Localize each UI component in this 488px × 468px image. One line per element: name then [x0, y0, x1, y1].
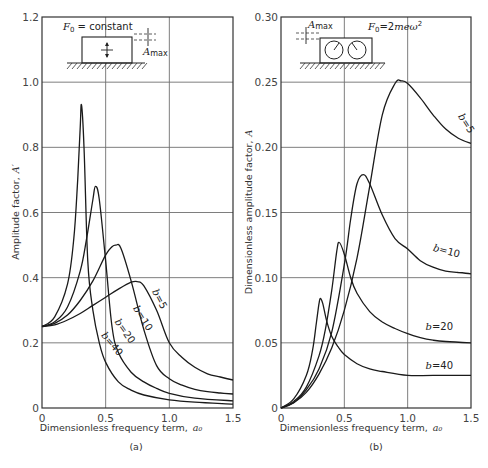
- panel-a-xlabel: Dimensionless frequency term,a₀: [40, 422, 203, 433]
- panel-b-chart: b=5b=10b=20b=40 00.51.01.500.050.100.150…: [243, 11, 479, 452]
- panel-b-force-label: F0=2meω2: [367, 20, 422, 34]
- y-tick-label: 0.2: [22, 337, 39, 349]
- hatch-stroke: [127, 63, 132, 69]
- panel-a-force-label: F0 = constant: [62, 21, 133, 34]
- hatch-stroke: [305, 63, 310, 69]
- curve-label: b=10: [131, 304, 155, 333]
- hatch-stroke: [330, 63, 335, 69]
- panel-b-grid: [281, 17, 471, 408]
- curve-label: b=40: [426, 360, 454, 371]
- hatch-stroke: [365, 63, 370, 69]
- curve-label-value: =10: [134, 309, 155, 333]
- y-tick-label: 0.05: [255, 337, 278, 349]
- panel-b-xlabel-symbol: a₀: [433, 422, 443, 433]
- hatch-stroke: [122, 63, 127, 69]
- hatch-stroke: [137, 63, 142, 69]
- panel-b-caption: (b): [369, 441, 382, 452]
- panel-b-xlabel-text: Dimensionless frequency term,: [280, 422, 428, 433]
- hatch-stroke: [310, 63, 315, 69]
- curve-b5: [42, 281, 233, 380]
- hatch-stroke: [370, 63, 375, 69]
- hatch-stroke: [350, 63, 355, 69]
- curve-label-value: =40: [103, 335, 125, 358]
- hatch-stroke: [87, 63, 92, 69]
- curve-label-value: =40: [432, 360, 453, 371]
- force-sq: 2: [418, 20, 422, 28]
- hatch-stroke: [355, 63, 360, 69]
- hatch-stroke: [72, 63, 77, 69]
- curve-label: b=10: [432, 242, 461, 260]
- curve-b40: [42, 104, 233, 404]
- y-tick-label: 0.10: [255, 272, 278, 284]
- y-tick-label: 0.20: [255, 141, 278, 153]
- panel-a-ylabel-symbol: A′: [10, 163, 21, 174]
- hatch-stroke: [315, 63, 320, 69]
- panel-a-xlabel-text: Dimensionless frequency term,: [40, 422, 188, 433]
- panel-a-grid: [42, 17, 233, 408]
- hatch-stroke: [360, 63, 365, 69]
- force-eq-b: =2: [379, 21, 394, 32]
- panel-a-caption: (a): [129, 441, 142, 452]
- hatch-stroke: [142, 63, 147, 69]
- hatch-stroke: [375, 63, 380, 69]
- curve-b20: [42, 186, 233, 400]
- hatch-stroke: [345, 63, 350, 69]
- panel-a-ylabel-text: Amplitude factor,: [10, 177, 21, 260]
- panel-b-ylabel-symbol: A: [243, 130, 254, 138]
- ground-hatch-b: [300, 63, 385, 69]
- panel-b-inset-diagram: F0=2meω2 Amax: [296, 19, 422, 69]
- curve-label: b=5: [150, 287, 170, 311]
- panel-a-chart: b=5b=10b=20b=40 00.51.01.500.20.40.60.81…: [10, 11, 241, 452]
- curve-b10: [281, 175, 471, 408]
- x-tick-label: 1.5: [463, 412, 480, 424]
- hatch-stroke: [335, 63, 340, 69]
- curve-label-value: =10: [438, 244, 461, 260]
- panel-a-curves: b=5b=10b=20b=40: [42, 104, 233, 404]
- curve-label-value: =20: [116, 322, 137, 346]
- hatch-stroke: [320, 63, 325, 69]
- y-tick-label: 0.15: [255, 207, 278, 219]
- force-me-omega: meω: [394, 21, 418, 32]
- curve-label: b=5: [456, 111, 477, 135]
- panel-b-ylabel-text: Dimensionless amplitude factor,: [243, 141, 254, 295]
- hatch-stroke: [102, 63, 107, 69]
- force-eq: = constant: [74, 21, 132, 32]
- panel-a-ylabel: Amplitude factor,A′: [10, 163, 21, 259]
- hatch-stroke: [107, 63, 112, 69]
- hatch-stroke: [77, 63, 82, 69]
- y-tick-label: 1.2: [22, 11, 39, 23]
- y-tick-label: 0.6: [22, 207, 39, 219]
- hatch-stroke: [132, 63, 137, 69]
- curve-b40: [281, 299, 471, 409]
- y-tick-label: 1.0: [22, 76, 39, 88]
- hatch-stroke: [380, 63, 385, 69]
- curve-label-value: =20: [432, 321, 453, 332]
- hatch-stroke: [300, 63, 305, 69]
- amax-A: A: [142, 46, 150, 57]
- curve-label: b=20: [426, 321, 454, 332]
- ground-hatch: [67, 63, 147, 69]
- y-tick-label: 0: [32, 402, 39, 414]
- y-tick-label: 0: [271, 402, 278, 414]
- panel-b-amax-label: Amax: [307, 19, 333, 31]
- x-tick-label: 1.5: [225, 412, 242, 424]
- panel-a-amax-label: Amax: [142, 46, 168, 58]
- hatch-stroke: [97, 63, 102, 69]
- hatch-stroke: [82, 63, 87, 69]
- hatch-stroke: [325, 63, 330, 69]
- hatch-stroke: [117, 63, 122, 69]
- y-tick-label: 0.4: [22, 272, 39, 284]
- panel-b-xlabel: Dimensionless frequency term,a₀: [280, 422, 443, 433]
- hatch-stroke: [112, 63, 117, 69]
- y-tick-label: 0.8: [22, 141, 39, 153]
- amax-A-b: A: [307, 19, 315, 30]
- panel-b-curves: b=5b=10b=20b=40: [281, 80, 477, 408]
- panel-a-inset-diagram: F0 = constant Amax: [62, 21, 168, 69]
- figure-canvas: b=5b=10b=20b=40 00.51.01.500.20.40.60.81…: [0, 0, 488, 468]
- hatch-stroke: [92, 63, 97, 69]
- panel-a-xlabel-symbol: a₀: [193, 422, 203, 433]
- amax-sub: max: [150, 49, 168, 58]
- y-tick-label: 0.30: [255, 11, 278, 23]
- panel-b-ylabel: Dimensionless amplitude factor,A: [243, 130, 254, 295]
- hatch-stroke: [67, 63, 72, 69]
